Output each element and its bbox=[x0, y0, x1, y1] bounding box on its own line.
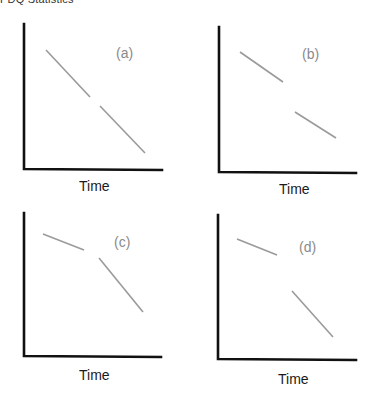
panel-d-x-axis-title: Time bbox=[278, 371, 309, 387]
panel-d: (d) Time bbox=[218, 215, 356, 387]
panel-a: (a) Time bbox=[24, 24, 162, 194]
panel-b-segment-after bbox=[295, 112, 336, 138]
panel-a-x-axis-title: Time bbox=[79, 178, 110, 194]
panel-c-segment-after bbox=[99, 258, 143, 312]
panel-b-axes bbox=[219, 27, 356, 173]
panel-a-label: (a) bbox=[116, 45, 133, 61]
panel-b-label: (b) bbox=[302, 46, 319, 62]
panel-a-segment-after bbox=[100, 106, 145, 153]
panel-d-segment-after bbox=[292, 291, 333, 337]
panel-b-x-axis-title: Time bbox=[279, 181, 310, 197]
panel-d-axes bbox=[218, 215, 356, 360]
figure-four-panels: (a) Time (b) Time (c) Time (d) Time bbox=[0, 0, 371, 400]
panel-b-segment-before bbox=[240, 52, 283, 82]
panel-c-segment-before bbox=[43, 234, 84, 250]
panel-b: (b) Time bbox=[219, 27, 356, 197]
panel-d-label: (d) bbox=[299, 239, 316, 255]
panel-c-x-axis-title: Time bbox=[79, 367, 110, 383]
panel-c: (c) Time bbox=[24, 213, 161, 383]
panel-a-segment-before bbox=[46, 50, 90, 97]
panel-c-label: (c) bbox=[114, 234, 130, 250]
panel-d-segment-before bbox=[237, 239, 277, 255]
